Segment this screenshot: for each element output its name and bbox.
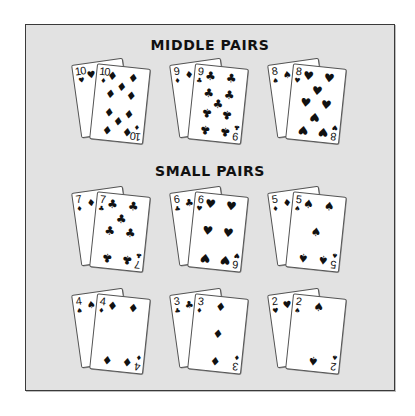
- diamond-icon: ♦: [122, 355, 134, 368]
- card-pips: ♠♠♠♠♠: [286, 192, 345, 271]
- card-rank: 3: [173, 296, 180, 308]
- heart-icon: ♥: [300, 96, 312, 109]
- pair-eights: 8♠♠8♥8♥♥♥♥♥♥♥♥♥: [268, 59, 348, 151]
- club-icon: ♣: [127, 200, 139, 213]
- card-pips: ♦♦♦: [188, 294, 247, 373]
- pair-nines: 9♦♦9♣9♣♣♣♣♣♣♣♣♣♣: [170, 59, 250, 151]
- diamond-icon: ♦: [125, 90, 137, 103]
- club-icon: ♣: [115, 212, 127, 225]
- card-pips: ♣♣♣♣♣♣♣: [90, 192, 149, 271]
- suit-icon: ♦: [174, 78, 181, 86]
- card-rank: 10: [74, 65, 86, 77]
- club-icon: ♣: [204, 70, 216, 83]
- club-icon: ♣: [201, 107, 213, 120]
- card-corner-index: 5♦: [270, 194, 279, 214]
- heart-icon: ♥: [323, 72, 335, 85]
- diamond-icon: ♦: [123, 107, 135, 120]
- pair-tens: 10♥♥10♦10♦♦♦♦♦♦♦♦♦♦♦: [72, 59, 152, 151]
- heart-icon: ♥: [320, 99, 332, 112]
- club-icon: ♣: [104, 224, 116, 237]
- card-four-of-diamonds: 4♦4♦♦♦♦♦: [89, 293, 151, 374]
- card-pips: ♥♥♥♥♥♥♥♥: [286, 64, 345, 143]
- diamond-icon: ♦: [101, 353, 113, 366]
- card-rank: 9: [173, 66, 180, 78]
- club-icon: ♣: [223, 88, 235, 101]
- heart-icon: ♥: [311, 84, 323, 97]
- card-rank: 2: [271, 296, 278, 308]
- card-pips: ♥♥♥♥♥♥: [188, 192, 247, 271]
- card-rank: 5: [271, 194, 278, 206]
- spade-icon: ♠: [307, 354, 319, 367]
- heart-icon: ♥: [297, 123, 309, 136]
- card-corner-index: 8♠: [270, 66, 279, 86]
- diamond-icon: ♦: [106, 300, 118, 313]
- diamond-icon: ♦: [101, 123, 113, 136]
- heart-icon: ♥: [202, 224, 214, 237]
- pair-sixes: 6♣♣6♥6♥♥♥♥♥♥♥: [170, 187, 250, 279]
- card-five-of-spades: 5♠5♠♠♠♠♠♠: [285, 191, 347, 272]
- heart-icon: ♥: [309, 111, 321, 124]
- card-rank: 7: [75, 194, 82, 206]
- diamond-icon: ♦: [209, 354, 221, 367]
- pairs-panel: MIDDLE PAIRS 10♥♥10♦10♦♦♦♦♦♦♦♦♦♦♦ 9♦♦9♣9…: [25, 24, 395, 391]
- club-icon: ♣: [220, 125, 232, 138]
- card-corner-index: 3♣: [172, 296, 181, 316]
- club-icon: ♣: [225, 72, 237, 85]
- card-corner-index: 7♦: [74, 194, 83, 214]
- card-six-of-hearts: 6♥6♥♥♥♥♥♥♥: [187, 191, 249, 272]
- card-pips: ♦♦♦♦♦♦♦♦♦♦: [90, 64, 149, 143]
- heart-icon: ♥: [302, 70, 314, 83]
- club-icon: ♣: [199, 123, 211, 136]
- heart-icon: ♥: [199, 251, 211, 264]
- card-pips: ♦♦♦♦: [90, 294, 149, 373]
- suit-icon: ♦: [272, 206, 279, 214]
- diamond-icon: ♦: [215, 301, 227, 314]
- section-title-small-pairs: SMALL PAIRS: [26, 163, 394, 179]
- card-rank: 8: [271, 66, 278, 78]
- section-title-middle-pairs: MIDDLE PAIRS: [26, 37, 394, 53]
- diamond-icon: ♦: [122, 125, 134, 138]
- club-icon: ♣: [221, 109, 233, 122]
- spade-icon: ♠: [302, 198, 314, 211]
- card-seven-of-clubs: 7♣7♣♣♣♣♣♣♣♣: [89, 191, 151, 272]
- suit-icon: ♣: [174, 206, 181, 214]
- pair-twos: 2♥♥2♠2♠♠♠: [268, 289, 348, 381]
- heart-icon: ♥: [222, 227, 234, 240]
- heart-icon: ♥: [204, 198, 216, 211]
- spade-icon: ♠: [297, 251, 309, 264]
- spade-icon: ♠: [310, 225, 322, 238]
- diamond-icon: ♦: [127, 302, 139, 315]
- card-corner-index: 6♣: [172, 194, 181, 214]
- suit-icon: ♠: [76, 308, 83, 316]
- pair-threes: 3♣♣3♦3♦♦♦♦: [170, 289, 250, 381]
- card-corner-index: 2♥: [270, 296, 279, 316]
- pair-fours: 4♠♠4♦4♦♦♦♦♦: [72, 289, 152, 381]
- spade-icon: ♠: [323, 200, 335, 213]
- card-corner-index: 4♠: [74, 296, 83, 316]
- spade-icon: ♠: [318, 253, 330, 266]
- card-rank: 6: [173, 194, 180, 206]
- card-corner-index: 9♦: [172, 66, 181, 86]
- heart-icon: ♥: [220, 253, 232, 266]
- card-rank: 4: [75, 296, 82, 308]
- suit-icon: ♥: [78, 77, 85, 85]
- club-icon: ♣: [122, 253, 134, 266]
- diamond-icon: ♦: [105, 88, 117, 101]
- club-icon: ♣: [101, 251, 113, 264]
- card-corner-index: 10♥: [74, 65, 87, 85]
- heart-icon: ♥: [225, 200, 237, 213]
- club-icon: ♣: [106, 198, 118, 211]
- suit-icon: ♣: [174, 308, 181, 316]
- heart-icon: ♥: [318, 125, 330, 138]
- pair-sevens: 7♦♦7♣7♣♣♣♣♣♣♣♣: [72, 187, 152, 279]
- card-ten-of-diamonds: 10♦10♦♦♦♦♦♦♦♦♦♦♦: [89, 63, 151, 144]
- suit-icon: ♦: [76, 206, 83, 214]
- card-eight-of-hearts: 8♥8♥♥♥♥♥♥♥♥♥: [285, 63, 347, 144]
- card-two-of-spades: 2♠2♠♠♠: [285, 293, 347, 374]
- spade-icon: ♠: [313, 301, 325, 314]
- card-nine-of-clubs: 9♣9♣♣♣♣♣♣♣♣♣♣: [187, 63, 249, 144]
- card-pips: ♣♣♣♣♣♣♣♣♣: [188, 64, 247, 143]
- suit-icon: ♥: [272, 308, 279, 316]
- club-icon: ♣: [124, 227, 136, 240]
- suit-icon: ♠: [272, 78, 279, 86]
